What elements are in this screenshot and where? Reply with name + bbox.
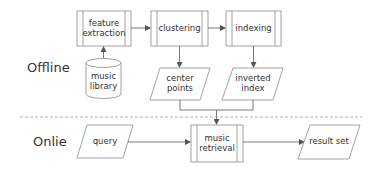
result-set-label: result set <box>305 125 353 159</box>
center-points-label: center points <box>158 68 202 100</box>
feature-extraction-label: feature extraction <box>83 11 125 46</box>
inverted-index-label: inverted index <box>230 68 276 100</box>
online-section-label: Onlie <box>33 134 78 150</box>
clustering-label: clustering <box>157 11 202 46</box>
query-label: query <box>83 125 127 158</box>
music-library-label: music library <box>88 68 119 96</box>
music-retrieval-label: music retrieval <box>197 125 237 162</box>
offline-section-label: Offline <box>27 60 77 76</box>
merge-connector <box>180 100 253 110</box>
indexing-label: indexing <box>232 11 275 46</box>
